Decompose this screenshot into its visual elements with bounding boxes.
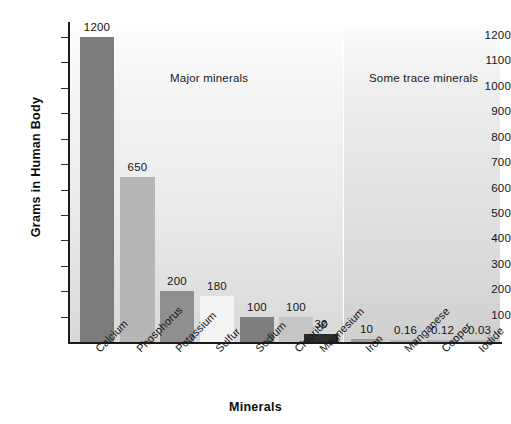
- bar-series: 120065020018010010030100.160.120.03: [0, 0, 511, 344]
- mineral-bar-chart: Major minerals Some trace minerals 10020…: [0, 0, 511, 424]
- bar-value-label: 650: [110, 161, 165, 173]
- bar-phosphorus[interactable]: [120, 177, 155, 342]
- bar-value-label: 1200: [70, 21, 124, 33]
- bar-value-label: 180: [190, 280, 244, 292]
- bar-value-label: 100: [269, 301, 323, 313]
- bar-calcium[interactable]: [80, 37, 114, 342]
- y-axis-title: Grams in Human Body: [29, 67, 43, 267]
- x-axis-title: Minerals: [0, 400, 511, 414]
